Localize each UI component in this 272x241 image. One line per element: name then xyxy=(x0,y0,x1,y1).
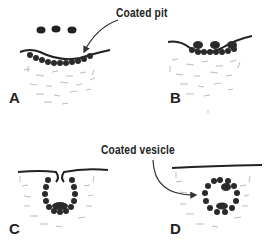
coated-vesicle-label: Coated vesicle xyxy=(101,143,175,157)
coated-pit-label: Coated pit xyxy=(116,6,168,20)
panel-a-drawing xyxy=(20,20,118,104)
panel-d-drawing xyxy=(153,160,262,227)
endocytosis-diagram xyxy=(0,0,272,241)
panel-label-d: D xyxy=(170,220,181,237)
panel-c-drawing xyxy=(18,169,108,227)
panel-label-a: A xyxy=(9,89,20,106)
panel-label-c: C xyxy=(9,220,20,237)
panel-label-b: B xyxy=(170,89,181,106)
